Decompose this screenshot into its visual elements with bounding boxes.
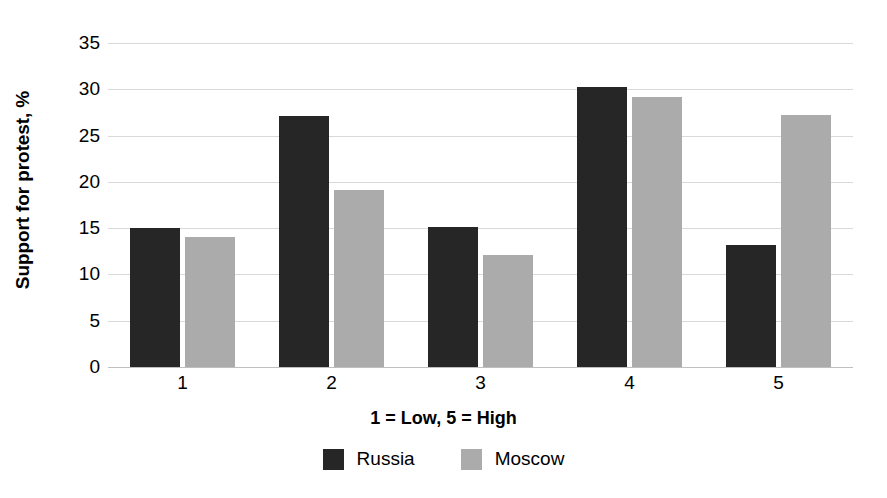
y-tick-label: 30 [56, 78, 100, 100]
bar-moscow-2 [334, 190, 384, 367]
y-axis-title: Support for protest, % [0, 0, 46, 380]
legend-item-moscow[interactable]: Moscow [461, 448, 565, 470]
bar-group [577, 43, 682, 367]
legend-item-russia[interactable]: Russia [323, 448, 415, 470]
x-tick-label: 2 [272, 372, 392, 394]
x-tick-label: 3 [421, 372, 541, 394]
x-tick-label: 4 [570, 372, 690, 394]
y-tick-label: 5 [56, 310, 100, 332]
bar-russia-5 [726, 245, 776, 367]
bar-russia-1 [130, 228, 180, 367]
bar-russia-3 [428, 227, 478, 367]
plot-area [108, 43, 853, 367]
bar-moscow-1 [185, 237, 235, 367]
y-tick-label: 35 [56, 32, 100, 54]
y-axis-title-text: Support for protest, % [12, 91, 34, 289]
bar-chart: Support for protest, % 05101520253035 12… [0, 0, 887, 498]
legend-label: Russia [357, 448, 415, 470]
bar-russia-2 [279, 116, 329, 367]
y-tick-label: 20 [56, 171, 100, 193]
bar-group [726, 43, 831, 367]
y-axis-tick-labels: 05101520253035 [52, 43, 100, 367]
bar-moscow-5 [781, 115, 831, 367]
y-tick-label: 10 [56, 263, 100, 285]
x-axis-tick-labels: 12345 [108, 372, 853, 402]
bar-group [279, 43, 384, 367]
x-axis-title: 1 = Low, 5 = High [0, 408, 887, 429]
bar-group [130, 43, 235, 367]
y-tick-label: 25 [56, 125, 100, 147]
legend-swatch-icon [461, 449, 482, 470]
y-tick-label: 0 [56, 356, 100, 378]
legend-label: Moscow [495, 448, 565, 470]
bar-group [428, 43, 533, 367]
bar-russia-4 [577, 87, 627, 367]
legend-swatch-icon [323, 449, 344, 470]
y-tick-label: 15 [56, 217, 100, 239]
x-tick-label: 1 [123, 372, 243, 394]
bar-moscow-4 [632, 97, 682, 367]
axis-baseline [108, 367, 853, 368]
chart-legend: RussiaMoscow [0, 448, 887, 470]
x-tick-label: 5 [719, 372, 839, 394]
bar-moscow-3 [483, 255, 533, 367]
